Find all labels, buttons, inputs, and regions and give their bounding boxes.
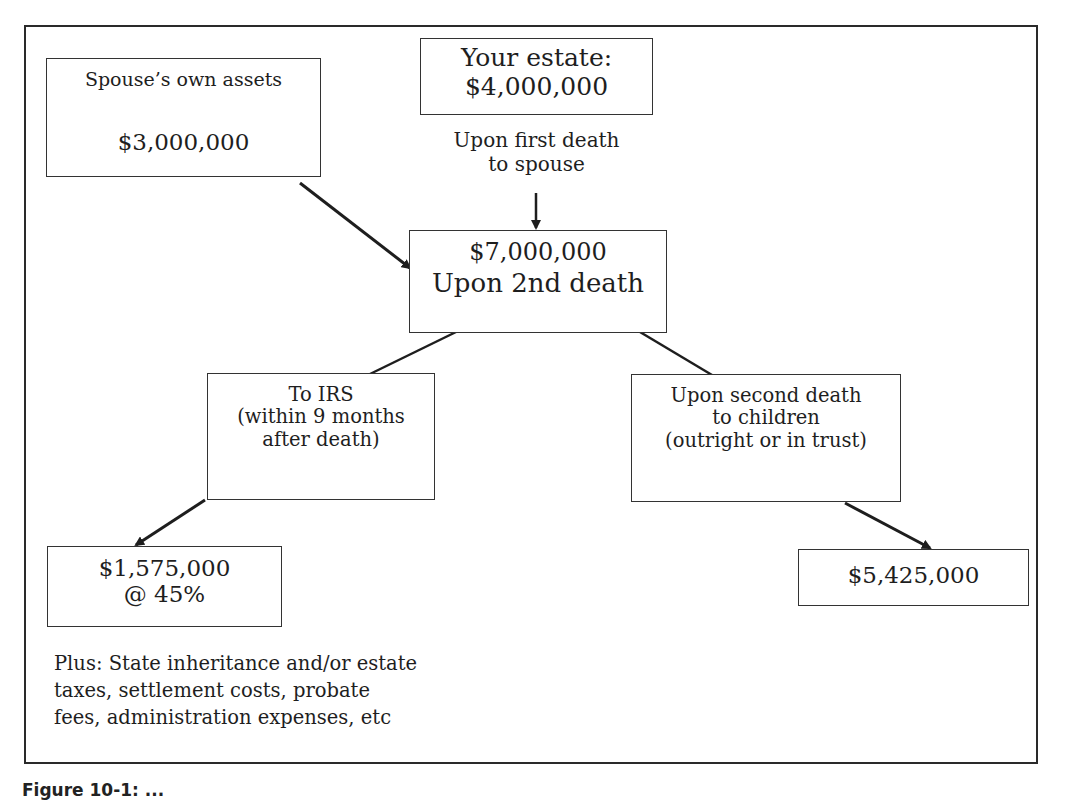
irs-line3: after death): [208, 429, 434, 451]
your-estate-title: Your estate:: [421, 44, 652, 73]
spouse-assets-value: $3,000,000: [47, 129, 320, 155]
first-death-line1: Upon first death: [420, 128, 653, 152]
first-death-line2: to spouse: [420, 152, 653, 176]
your-estate-box: Your estate: $4,000,000: [420, 38, 653, 115]
note-line2: taxes, settlement costs, probate: [54, 677, 417, 704]
children-line3: (outright or in trust): [632, 430, 900, 452]
children-box: Upon second death to children (outright …: [631, 374, 901, 502]
first-death-label: Upon first death to spouse: [420, 128, 653, 176]
tax-amount-value: $1,575,000: [48, 555, 281, 581]
spouse-assets-box: Spouse’s own assets $3,000,000: [46, 58, 321, 177]
your-estate-value: $4,000,000: [421, 73, 652, 102]
note-line1: Plus: State inheritance and/or estate: [54, 650, 417, 677]
children-amount-value: $5,425,000: [799, 562, 1028, 588]
combined-estate-box: $7,000,000 Upon 2nd death: [409, 230, 667, 333]
combined-estate-value: $7,000,000: [410, 239, 666, 267]
children-line1: Upon second death: [632, 385, 900, 407]
tax-amount-box: $1,575,000 @ 45%: [47, 546, 282, 627]
tax-rate: @ 45%: [48, 581, 281, 607]
irs-box: To IRS (within 9 months after death): [207, 373, 435, 500]
spouse-assets-label: Spouse’s own assets: [47, 69, 320, 91]
irs-line2: (within 9 months: [208, 406, 434, 428]
additional-costs-note: Plus: State inheritance and/or estate ta…: [54, 650, 417, 731]
irs-line1: To IRS: [208, 384, 434, 406]
combined-estate-label: Upon 2nd death: [410, 269, 666, 299]
figure-caption: Figure 10-1: ...: [22, 780, 164, 800]
note-line3: fees, administration expenses, etc: [54, 704, 417, 731]
children-line2: to children: [632, 407, 900, 429]
children-amount-box: $5,425,000: [798, 549, 1029, 606]
